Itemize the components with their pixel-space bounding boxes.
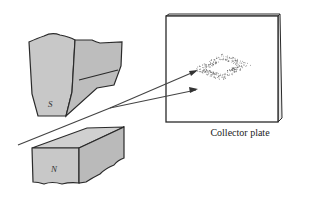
collector-plate-label: Collector plate — [190, 127, 290, 138]
deposit-dot — [224, 74, 225, 75]
deposit-dot — [223, 78, 224, 79]
deposit-dot — [208, 64, 209, 65]
deposit-dot — [213, 74, 214, 75]
deposit-dot — [211, 76, 212, 77]
deposit-dot — [233, 63, 234, 64]
deposit-dot — [230, 71, 231, 72]
deposit-dot — [202, 73, 203, 74]
deposit-dot — [216, 63, 217, 64]
deposit-dot — [217, 72, 218, 73]
deposit-dot — [238, 64, 239, 65]
deposit-dot — [207, 72, 208, 73]
deposit-dot — [200, 71, 201, 72]
deposit-dot — [205, 68, 206, 69]
deposit-dot — [232, 68, 233, 69]
deposit-dot — [228, 61, 229, 62]
deposit-dot — [206, 70, 207, 71]
deposit-dot — [232, 70, 233, 71]
deposit-dot — [229, 58, 230, 59]
deposit-dot — [231, 62, 232, 63]
deposit-dot — [234, 72, 235, 73]
deposit-dot — [232, 58, 233, 59]
deposit-dot — [229, 75, 230, 76]
deposit-dot — [216, 74, 217, 75]
south-magnet-side-face — [66, 40, 122, 116]
deposit-dot — [226, 60, 227, 61]
deposit-dot — [209, 70, 210, 71]
deposit-dot — [197, 71, 198, 72]
deposit-dot — [223, 56, 224, 57]
deposit-dot — [217, 77, 218, 78]
deposit-dot — [216, 58, 217, 59]
deposit-dot — [227, 61, 228, 62]
deposit-dot — [205, 71, 206, 72]
deposit-dot — [205, 66, 206, 67]
deposit-dot — [239, 62, 240, 63]
deposit-dot — [236, 61, 237, 62]
deposit-dot — [226, 56, 227, 57]
deposit-dot — [217, 58, 218, 59]
deposit-dot — [225, 76, 226, 77]
deposit-dot — [207, 71, 208, 72]
deposit-dot — [197, 67, 198, 68]
deposit-dot — [206, 65, 207, 66]
deposit-dot — [211, 60, 212, 61]
deposit-dot — [233, 57, 234, 58]
deposit-dot — [237, 67, 238, 68]
deposit-dot — [250, 65, 251, 66]
deposit-dot — [216, 74, 217, 75]
deposit-dot — [223, 59, 224, 60]
deposit-dot — [213, 64, 214, 65]
deposit-dot — [218, 62, 219, 63]
deposit-dot — [225, 78, 226, 79]
deposit-dot — [218, 73, 219, 74]
deposit-dot — [238, 67, 239, 68]
deposit-dot — [221, 55, 222, 56]
deposit-dot — [236, 70, 237, 71]
deposit-dot — [240, 61, 241, 62]
deposit-dot — [223, 58, 224, 59]
deposit-dot — [227, 72, 228, 73]
deposit-dot — [210, 63, 211, 64]
deposit-dot — [215, 78, 216, 79]
deposit-dot — [214, 73, 215, 74]
deposit-dot — [236, 71, 237, 72]
deposit-dot — [210, 71, 211, 72]
deposit-dot — [241, 62, 242, 63]
deposit-dot — [215, 61, 216, 62]
deposit-dot — [216, 57, 217, 58]
deposit-dot — [226, 59, 227, 60]
deposit-dot — [225, 59, 226, 60]
deposit-dot — [227, 75, 228, 76]
deposit-dot — [238, 65, 239, 66]
deposit-dot — [240, 69, 241, 70]
deposit-dot — [222, 74, 223, 75]
deposit-dot — [231, 58, 232, 59]
deposit-dot — [241, 66, 242, 67]
deposit-dot — [221, 59, 222, 60]
deposit-dot — [212, 64, 213, 65]
deposit-dot — [212, 65, 213, 66]
deposit-dot — [200, 68, 201, 69]
deposit-dot — [219, 75, 220, 76]
south-pole-label: S — [48, 99, 53, 109]
deposit-dot — [229, 74, 230, 75]
deposit-dot — [215, 72, 216, 73]
deposit-dot — [202, 70, 203, 71]
deposit-dot — [219, 57, 220, 58]
collector-plate-face — [166, 16, 278, 122]
deposit-dot — [231, 74, 232, 75]
deposit-dot — [215, 60, 216, 61]
deposit-dot — [221, 54, 222, 55]
deposit-dot — [240, 70, 241, 71]
deposit-dot — [220, 74, 221, 75]
deposit-dot — [219, 78, 220, 79]
deposit-dot — [212, 63, 213, 64]
deposit-dot — [202, 65, 203, 66]
deposit-dot — [206, 69, 207, 70]
deposit-dot — [214, 59, 215, 60]
deposit-dot — [219, 75, 220, 76]
deposit-dot — [213, 61, 214, 62]
deposit-dot — [212, 73, 213, 74]
deposit-dot — [229, 57, 230, 58]
